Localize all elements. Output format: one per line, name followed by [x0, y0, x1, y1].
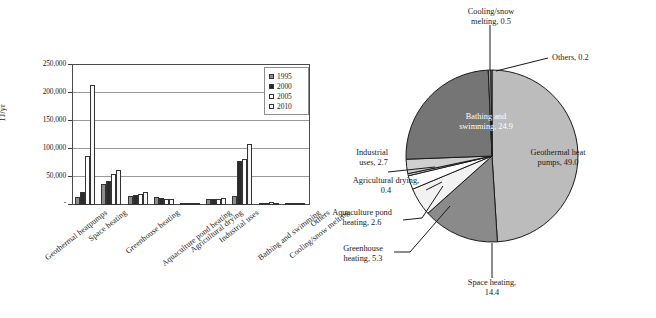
pie-chart-panel: Cooling/snow melting, 0.5 Others, 0.2 Ge…	[330, 0, 656, 318]
pie-label-line: Bathing and	[442, 112, 530, 122]
pie-label-line: 14.4	[456, 288, 528, 298]
pie-label-bathing-and-swimming: Bathing and swimming, 24.9	[442, 112, 530, 132]
pie-label-aquaculture-pond-heating: Aquaculture pond heating, 2.6	[322, 208, 402, 228]
pie-label-line: Cooling/snow	[452, 7, 530, 17]
legend-label: 2010	[277, 102, 292, 111]
bar-group-geothermal-heatpumps	[75, 65, 97, 205]
y-tick-label-100000: 100,000	[6, 144, 66, 152]
legend-item-2005: 2005	[269, 91, 305, 101]
legend-label: 2000	[277, 82, 292, 91]
pie-label-line: Industrial	[322, 148, 388, 158]
pie-label-agricultural-drying: Agricultural drying, 0.4	[344, 176, 428, 196]
pie-label-line: swimming, 24.9	[442, 122, 530, 132]
x-axis-label-greenhouse-heating: Greenhouse heating	[124, 208, 181, 255]
pie-label-line: heating, 2.6	[322, 218, 402, 228]
y-tick-label-150000: 150,000	[6, 116, 66, 124]
bar-2010	[247, 144, 252, 205]
pie-label-line: Agricultural drying,	[344, 176, 428, 186]
leader-line-aquaculture-pond-heating-2	[403, 218, 422, 220]
pie-label-line: Others, 0.2	[552, 53, 589, 63]
bar-2010	[274, 203, 279, 205]
pie-label-line: 0.4	[344, 186, 428, 196]
pie-label-line: heating, 5.3	[332, 254, 394, 264]
leader-line-others	[496, 58, 548, 71]
pie-label-cooling-snow-melting: Cooling/snow melting, 0.5	[452, 7, 530, 27]
pie-label-line: Greenhouse	[332, 244, 394, 254]
pie-label-industrial-uses: Industrial uses, 2.7	[322, 148, 388, 168]
pie-label-line: Aquaculture pond	[322, 208, 402, 218]
legend-swatch-icon	[269, 84, 274, 89]
pie-label-line: Geothermal heat	[508, 148, 608, 158]
figure-root: TJ/yr 250,000 200,000 150,000 100,000 50…	[0, 0, 656, 318]
y-tick-label-250000: 250,000	[6, 60, 66, 68]
bar-group-industrial-uses	[206, 65, 228, 205]
pie-label-line: Space heating,	[456, 278, 528, 288]
bar-2010	[169, 199, 174, 205]
pie-label-space-heating: Space heating, 14.4	[456, 278, 528, 298]
bar-2010	[143, 192, 148, 205]
legend-label: 2005	[277, 92, 292, 101]
pie-label-line: melting, 0.5	[452, 17, 530, 27]
legend-label: 1995	[277, 72, 292, 81]
pie-label-line: pumps, 49.0	[508, 158, 608, 168]
bar-2010	[300, 203, 305, 205]
bar-2010	[116, 170, 121, 205]
bar-group-agricultural-drying	[180, 65, 202, 205]
bar-chart-legend: 1995 2000 2005 2010	[264, 67, 309, 115]
legend-item-2010: 2010	[269, 101, 305, 111]
bar-group-space-heating	[101, 65, 123, 205]
legend-swatch-icon	[269, 94, 274, 99]
bar-group-aquaculture-pond-heating	[154, 65, 176, 205]
pie-label-line: uses, 2.7	[322, 158, 388, 168]
legend-item-1995: 1995	[269, 71, 305, 81]
pie-label-others: Others, 0.2	[552, 53, 589, 63]
y-tick-label-50000: 50,000	[6, 172, 66, 180]
bar-2010	[90, 85, 95, 205]
bar-2010	[195, 203, 200, 205]
legend-swatch-icon	[269, 104, 274, 109]
bar-2010	[221, 198, 226, 205]
pie-label-greenhouse-heating: Greenhouse heating, 5.3	[332, 244, 394, 264]
legend-swatch-icon	[269, 74, 274, 79]
y-tick-label-0: -	[6, 199, 66, 207]
bar-chart-panel: TJ/yr 250,000 200,000 150,000 100,000 50…	[0, 0, 330, 318]
bar-group-bathing-and-swimming	[232, 65, 254, 205]
y-tick-label-200000: 200,000	[6, 88, 66, 96]
pie-label-geothermal-heat-pumps: Geothermal heat pumps, 49.0	[508, 148, 608, 168]
bar-group-greenhouse-heating	[128, 65, 150, 205]
legend-item-2000: 2000	[269, 81, 305, 91]
